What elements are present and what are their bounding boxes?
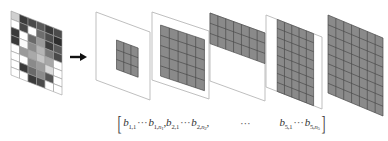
pyramid-panel-level-2	[152, 12, 209, 99]
pyramid-panel-level-5	[328, 15, 383, 116]
formula-term-1: b1,1···b1,n1,	[123, 116, 166, 131]
pyramid-panel-level-3	[210, 13, 265, 101]
formula-ellipsis: ···	[240, 117, 250, 129]
input-image-grid	[11, 11, 62, 95]
feature-vector-formula: [ b1,1···b1,n1, b2,1···b2,n2, ··· b5,1··…	[116, 110, 327, 136]
formula-term-5: b5,1···b5,n5	[279, 116, 319, 131]
pyramid-panel-level-1	[96, 12, 150, 100]
pyramid-panel-level-4	[266, 15, 322, 109]
open-bracket: [	[118, 112, 122, 134]
close-bracket: ]	[321, 112, 325, 134]
formula-term-2: b2,1···b2,n2,	[166, 116, 209, 131]
right-arrow-icon	[70, 53, 87, 61]
spp-diagram: [ b1,1···b1,n1, b2,1···b2,n2, ··· b5,1··…	[0, 0, 388, 141]
